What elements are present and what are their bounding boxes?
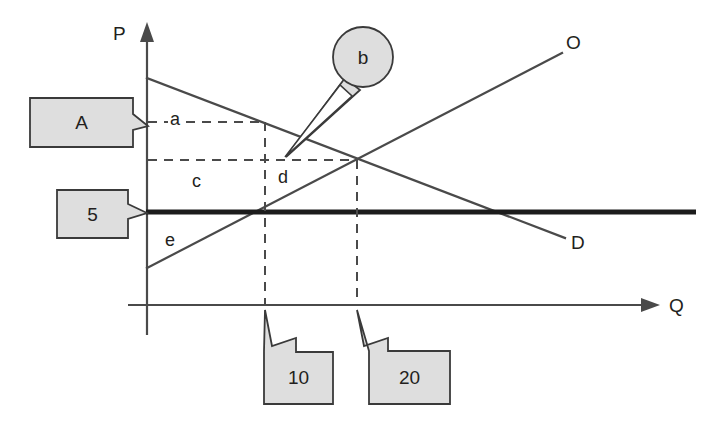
callout-quantity-10-label: 10 — [264, 368, 333, 387]
supply-curve-label: O — [566, 33, 581, 52]
area-label-c: c — [192, 172, 201, 190]
callout-price-5-label: 5 — [57, 205, 128, 224]
callout-price-a-label: A — [30, 113, 133, 132]
p-axis-arrowhead — [140, 22, 154, 42]
supply-demand-diagram: P Q O D a c d e A 5 10 20 b — [0, 0, 703, 422]
demand-curve-label: D — [571, 233, 585, 252]
callout-quantity-10-body — [264, 310, 333, 404]
callout-quantity-20-body — [357, 310, 450, 404]
bubble-b-needle — [285, 85, 352, 157]
p-axis-label: P — [113, 24, 126, 43]
callout-quantity-20-shape[interactable] — [357, 310, 450, 404]
area-label-a: a — [170, 110, 180, 128]
axes-group — [128, 22, 660, 335]
callout-quantity-10-shape[interactable] — [264, 310, 333, 404]
area-label-d: d — [278, 168, 288, 186]
bubble-b-pointer — [285, 85, 352, 157]
q-axis-label: Q — [669, 296, 684, 315]
q-axis-arrowhead — [641, 298, 660, 312]
callout-bubble-b-label: b — [333, 48, 393, 67]
callout-quantity-20-label: 20 — [369, 368, 450, 387]
area-label-e: e — [165, 231, 175, 249]
